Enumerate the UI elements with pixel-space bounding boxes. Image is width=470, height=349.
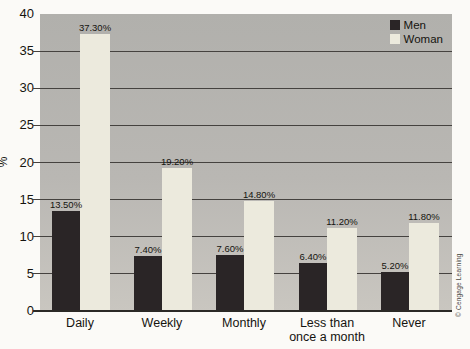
bar-woman-0 <box>80 34 110 311</box>
y-tick-label: 20 <box>0 155 34 170</box>
bar-value-label: 6.40% <box>300 252 327 262</box>
category-label: Weekly <box>142 317 183 331</box>
x-axis-line <box>33 310 452 312</box>
legend: MenWoman <box>390 18 443 46</box>
copyright-credit: © Cengage Learning <box>455 253 462 317</box>
chart-figure: % 0510152025303540 13.50%7.40%7.60%6.40%… <box>0 0 470 349</box>
category-label: Never <box>392 317 425 331</box>
legend-label: Men <box>404 19 426 31</box>
y-tick-label: 35 <box>0 43 34 58</box>
legend-label: Woman <box>404 33 443 45</box>
bar-value-label: 5.20% <box>382 261 409 271</box>
plot-area: 13.50%7.40%7.60%6.40%5.20%37.30%19.20%14… <box>40 14 452 311</box>
legend-item-men: Men <box>390 18 443 32</box>
category-label: Monthly <box>222 317 266 331</box>
y-tick-label: 10 <box>0 229 34 244</box>
y-tick-label: 0 <box>0 303 34 318</box>
bar-men-0 <box>52 211 80 311</box>
legend-swatch-icon <box>390 20 400 30</box>
legend-item-woman: Woman <box>390 32 443 46</box>
y-tick-label: 5 <box>0 266 34 281</box>
bar-value-label: 19.20% <box>161 157 193 167</box>
bar-men-4 <box>381 272 409 311</box>
y-tick-label: 15 <box>0 192 34 207</box>
bar-men-2 <box>216 255 244 311</box>
bar-value-label: 7.60% <box>217 244 244 254</box>
bar-value-label: 13.50% <box>50 200 82 210</box>
bar-value-label: 37.30% <box>79 23 111 33</box>
bar-value-label: 11.80% <box>408 212 440 222</box>
bar-woman-3 <box>327 228 357 311</box>
y-tick-label: 25 <box>0 117 34 132</box>
bar-value-label: 11.20% <box>326 217 358 227</box>
bar-woman-1 <box>162 168 192 311</box>
bar-value-label: 7.40% <box>135 245 162 255</box>
category-label: Less thanonce a month <box>289 317 365 344</box>
legend-swatch-icon <box>390 34 400 44</box>
y-tick-label: 30 <box>0 80 34 95</box>
bar-woman-4 <box>409 223 439 311</box>
category-label: Daily <box>66 317 94 331</box>
bar-men-3 <box>299 263 327 311</box>
y-tick-label: 40 <box>0 6 34 21</box>
bar-value-label: 14.80% <box>243 190 275 200</box>
bar-woman-2 <box>244 201 274 311</box>
bar-men-1 <box>134 256 162 311</box>
